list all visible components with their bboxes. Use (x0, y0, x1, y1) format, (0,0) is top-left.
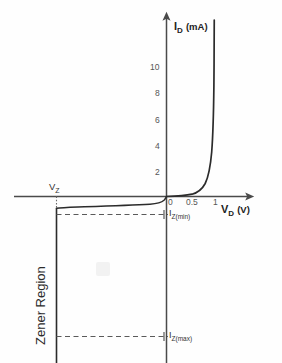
x-axis-title: VD (V) (221, 204, 250, 218)
y-tick-label-6: 6 (155, 116, 160, 125)
x-axis-title-sub: D (228, 209, 234, 218)
y-axis-title: ID (mA) (174, 21, 208, 35)
forward-bias-curve (167, 20, 215, 197)
zener-voltage-label-sub: Z (55, 187, 59, 194)
zener-voltage-label: VZ (49, 182, 60, 194)
y-axis-title-sub: D (177, 26, 183, 35)
x-tick-label-1: 1 (213, 198, 218, 207)
iz-max-label: IZ(max) (169, 331, 192, 342)
x-axis-title-unit: (V) (237, 204, 250, 215)
iz-max-label-sub: Z(max) (172, 335, 193, 342)
y-axis-title-unit: (mA) (186, 21, 208, 32)
iz-min-label-sub: Z(min) (172, 213, 191, 220)
zener-diode-iv-characteristic-chart: ID (mA) VD (V) 10 8 6 4 2 0 0.5 1 VZ IZ(… (0, 0, 282, 363)
y-tick-label-2: 2 (155, 168, 160, 177)
x-tick-label-0point5: 0.5 (186, 198, 198, 207)
x-tick-label-0: 0 (168, 198, 173, 207)
reverse-leakage-curve (57, 197, 167, 209)
y-tick-label-10: 10 (150, 63, 159, 72)
y-tick-label-4: 4 (155, 142, 160, 151)
y-tick-label-8: 8 (155, 89, 160, 98)
iz-min-label: IZ(min) (169, 209, 190, 220)
zener-region-label: Zener Region (33, 266, 48, 345)
